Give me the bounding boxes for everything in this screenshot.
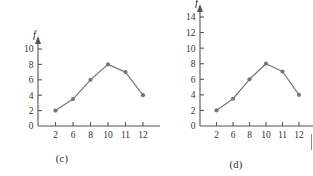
chart-panel-c: 0246810268101112fx (c) (0, 0, 160, 176)
data-point-marker (297, 93, 301, 97)
x-tick-label: 8 (88, 130, 93, 140)
x-tick-label: 2 (53, 130, 58, 140)
data-point-marker (141, 93, 145, 97)
data-point-marker (214, 108, 218, 112)
line-chart-d: 02468101214268101112fx (155, 0, 313, 176)
y-tick-label: 0 (29, 121, 34, 131)
y-tick-label: 4 (29, 91, 34, 101)
chart-panel-d: 02468101214268101112fx (d) (155, 0, 313, 176)
x-tick-label: 11 (278, 130, 287, 140)
y-tick-label: 8 (191, 59, 196, 69)
y-tick-label: 8 (29, 60, 34, 70)
data-point-marker (280, 69, 284, 73)
y-tick-label: 10 (186, 44, 196, 54)
cropped-edge-artifact (311, 134, 313, 150)
data-point-marker (88, 78, 92, 82)
data-point-marker (106, 62, 110, 66)
x-tick-label: 6 (71, 130, 76, 140)
x-tick-label: 6 (231, 130, 236, 140)
x-tick-label: 8 (247, 130, 252, 140)
data-point-marker (264, 62, 268, 66)
y-tick-label: 12 (186, 28, 196, 38)
y-tick-label: 6 (29, 75, 34, 85)
x-tick-label: 12 (294, 130, 304, 140)
data-series-line (56, 64, 144, 110)
data-series-line (217, 64, 300, 111)
x-tick-label: 11 (121, 130, 130, 140)
y-tick-label: 2 (191, 106, 196, 116)
panel-caption-c: (c) (0, 153, 142, 164)
x-tick-label: 10 (103, 130, 113, 140)
y-tick-label: 0 (191, 121, 196, 131)
data-point-marker (231, 97, 235, 101)
x-tick-label: 2 (214, 130, 219, 140)
data-point-marker (247, 77, 251, 81)
y-tick-label: 4 (191, 90, 196, 100)
panel-caption-d: (d) (157, 159, 313, 170)
y-tick-label: 6 (191, 75, 196, 85)
line-chart-c: 0246810268101112fx (0, 0, 160, 176)
x-tick-label: 12 (138, 130, 148, 140)
x-tick-label: 10 (261, 130, 271, 140)
data-point-marker (71, 97, 75, 101)
data-point-marker (123, 70, 127, 74)
data-point-marker (53, 109, 57, 113)
y-tick-label: 14 (186, 12, 196, 22)
y-tick-label: 2 (29, 106, 34, 116)
figure-panel-pair: 0246810268101112fx (c) 02468101214268101… (0, 0, 313, 176)
y-tick-label: 10 (24, 44, 34, 54)
